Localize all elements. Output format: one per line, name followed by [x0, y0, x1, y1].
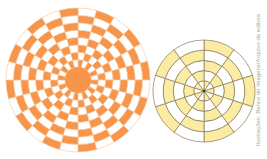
center-dot — [203, 90, 205, 92]
wheel-cell — [43, 80, 51, 89]
wheel-cell — [163, 78, 175, 103]
image-credit: Ilustrações: Banco de imagens/Arquivo da… — [255, 14, 261, 146]
wheel-cell — [69, 45, 78, 53]
orange-checkered-circle — [4, 6, 152, 154]
wheel-cell — [78, 107, 87, 115]
wheel-cell — [243, 75, 255, 107]
yellow-checkered-circle — [151, 38, 257, 144]
wheel-cell — [153, 75, 165, 107]
wheel-cell — [105, 71, 113, 80]
wheel-cell — [233, 78, 245, 103]
center-disc — [65, 67, 91, 93]
